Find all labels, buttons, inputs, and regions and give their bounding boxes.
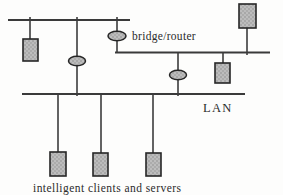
client-node-top-left [23, 39, 38, 61]
bridge-router-node [108, 31, 126, 41]
bridge-node-left [69, 56, 86, 65]
network-topology-diagram: bridge/router LAN intelligent clients an… [0, 0, 283, 195]
client-node-bottom-2 [93, 153, 108, 176]
lan-label: LAN [203, 101, 233, 115]
diagram-canvas: bridge/router LAN intelligent clients an… [0, 0, 283, 195]
caption-label: intelligent clients and servers [33, 182, 181, 195]
client-node-mid-right [215, 63, 230, 83]
client-node-bottom-3 [146, 153, 161, 176]
bridge-node-right [170, 70, 187, 79]
bridge-router-label: bridge/router [132, 30, 196, 43]
client-node-bottom-1 [50, 152, 66, 176]
client-node-top-right [239, 4, 256, 28]
